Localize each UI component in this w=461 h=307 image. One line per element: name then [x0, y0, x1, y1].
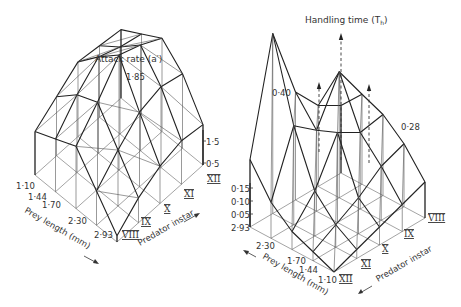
right-chart-title: Handling time (Th) — [305, 15, 388, 26]
right-z-tick-0-10: 0·10 — [231, 197, 250, 207]
off-scale-arrow-head — [367, 84, 371, 91]
right-prey-axis-arrow — [243, 250, 256, 257]
left-x-tick-3: 2·30 — [68, 216, 87, 226]
handling-time-surface — [250, 33, 425, 272]
right-x-tick-3: 2·30 — [256, 241, 275, 251]
right-y-tick-3: XI — [361, 259, 371, 269]
figure: Attack rate (a′) 1·85 1·5 0·5 1·10 1·44 … — [0, 0, 461, 307]
right-peak-label-2: 0·28 — [401, 122, 420, 132]
left-surface-diagonal — [76, 146, 118, 150]
off-scale-arrow-head — [317, 82, 321, 89]
left-surface-diagonal — [98, 102, 140, 112]
right-y-tick-1: IX — [404, 229, 415, 239]
left-x-tick-0: 1·10 — [16, 181, 35, 191]
left-y-tick-4: XII — [207, 174, 221, 184]
left-peak-label: 1·85 — [126, 72, 145, 82]
left-y-tick-1: IX — [141, 217, 152, 227]
right-y-tick-0: VIII — [427, 213, 446, 223]
left-y-tick-3: XI — [184, 189, 194, 199]
left-y-tick-2: X — [164, 204, 171, 214]
left-z-tick-1-5: 1·5 — [206, 137, 220, 147]
right-y-tick-2: X — [382, 244, 389, 254]
left-surface-diagonal — [161, 87, 203, 125]
right-peak-label-1: 0·40 — [272, 88, 291, 98]
left-z-tick-0-5: 0·5 — [206, 159, 220, 169]
right-z-tick-0-15: 0·15 — [231, 184, 250, 194]
left-x-tick-4: 2·93 — [94, 230, 113, 240]
left-surface-diagonal — [97, 191, 139, 198]
right-y-tick-4: XII — [339, 274, 353, 284]
right-z-tick-0-05: 0·05 — [231, 210, 250, 220]
left-prey-axis-label: Prey length (mm) — [23, 205, 92, 251]
right-instar-axis-arrow — [358, 286, 372, 294]
left-prey-axis-arrow — [84, 256, 99, 264]
left-chart-title: Attack rate (a′) — [95, 54, 162, 64]
left-surface-diagonal — [140, 112, 182, 141]
off-scale-arrow-head — [339, 33, 343, 40]
left-x-tick-2: 1·70 — [42, 200, 61, 210]
right-z-base-label: 2·93 — [231, 223, 250, 233]
